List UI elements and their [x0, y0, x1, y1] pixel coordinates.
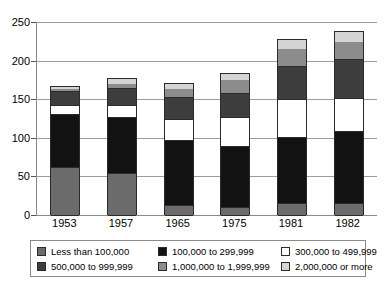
- y-tick-label: 100: [0, 133, 30, 144]
- legend-item[interactable]: 500,000 to 999,999: [35, 259, 156, 274]
- x-tick-label: 1957: [101, 217, 141, 230]
- plot-area: [36, 22, 377, 216]
- bar-segment[interactable]: [278, 100, 306, 138]
- stacked-bar-chart: 050100150200250 195319571965197519811982…: [0, 0, 392, 283]
- plot-wrapper: 050100150200250 195319571965197519811982: [0, 0, 392, 232]
- bar-segment[interactable]: [278, 204, 306, 216]
- stacked-bar[interactable]: [164, 83, 194, 215]
- bar-segment[interactable]: [335, 204, 363, 216]
- x-tick-label: 1965: [158, 217, 198, 230]
- stacked-bar[interactable]: [50, 86, 80, 215]
- bar-segment[interactable]: [108, 174, 136, 216]
- x-tick-label: 1975: [214, 217, 254, 230]
- y-tick-label: 50: [0, 171, 30, 182]
- legend-row: 500,000 to 999,999 1,000,000 to 1,999,99…: [35, 259, 361, 274]
- legend: Less than 100,000 100,000 to 299,999 300…: [30, 240, 366, 277]
- stacked-bar[interactable]: [277, 39, 307, 215]
- bar-segment[interactable]: [221, 147, 249, 209]
- legend-item-label: Less than 100,000: [51, 246, 129, 257]
- bar-segment[interactable]: [335, 42, 363, 61]
- legend-row: Less than 100,000 100,000 to 299,999 300…: [35, 244, 361, 259]
- y-axis: 050100150200250: [0, 0, 30, 232]
- bar-segment[interactable]: [51, 168, 79, 216]
- bar-segment[interactable]: [278, 49, 306, 67]
- legend-item-label: 1,000,000 to 1,999,999: [172, 261, 270, 272]
- legend-item-label: 300,000 to 499,999: [295, 246, 377, 257]
- legend-swatch-icon: [158, 247, 167, 256]
- bar-segment[interactable]: [335, 60, 363, 99]
- bar-segment[interactable]: [108, 118, 136, 174]
- stacked-bar[interactable]: [334, 31, 364, 216]
- bars-layer: [37, 22, 377, 215]
- bar-segment[interactable]: [165, 120, 193, 141]
- legend-swatch-icon: [281, 262, 290, 271]
- bar-segment[interactable]: [278, 67, 306, 100]
- y-tick-label: 0: [0, 210, 30, 221]
- legend-item[interactable]: 300,000 to 499,999: [279, 244, 361, 259]
- legend-item[interactable]: Less than 100,000: [35, 244, 156, 259]
- stacked-bar[interactable]: [220, 73, 250, 215]
- x-tick-label: 1981: [271, 217, 311, 230]
- bar-segment[interactable]: [165, 206, 193, 216]
- bar-segment[interactable]: [51, 92, 79, 106]
- legend-swatch-icon: [158, 262, 167, 271]
- bar-segment[interactable]: [108, 89, 136, 106]
- bar-segment[interactable]: [165, 141, 193, 206]
- bar-segment[interactable]: [51, 106, 79, 114]
- x-tick-label: 1982: [328, 217, 368, 230]
- x-axis: 195319571965197519811982: [36, 217, 376, 233]
- bar-segment[interactable]: [335, 132, 363, 204]
- bar-segment[interactable]: [221, 118, 249, 147]
- legend-item-label: 2,000,000 or more: [295, 261, 373, 272]
- bar-segment[interactable]: [165, 89, 193, 97]
- legend-swatch-icon: [281, 247, 290, 256]
- legend-swatch-icon: [37, 262, 46, 271]
- bar-segment[interactable]: [51, 115, 79, 168]
- y-tick-label: 250: [0, 17, 30, 28]
- bar-segment[interactable]: [221, 94, 249, 118]
- legend-item[interactable]: 1,000,000 to 1,999,999: [156, 259, 279, 274]
- stacked-bar[interactable]: [107, 78, 137, 215]
- legend-item[interactable]: 100,000 to 299,999: [156, 244, 279, 259]
- legend-item-label: 100,000 to 299,999: [172, 246, 254, 257]
- bar-segment[interactable]: [165, 98, 193, 120]
- bar-segment[interactable]: [108, 106, 136, 118]
- bar-segment[interactable]: [221, 208, 249, 216]
- legend-item[interactable]: 2,000,000 or more: [279, 259, 361, 274]
- bar-segment[interactable]: [278, 40, 306, 49]
- bar-segment[interactable]: [278, 138, 306, 204]
- bar-segment[interactable]: [221, 80, 249, 94]
- y-tick-label: 150: [0, 94, 30, 105]
- legend-item-label: 500,000 to 999,999: [51, 261, 133, 272]
- bar-segment[interactable]: [335, 32, 363, 42]
- x-tick-label: 1953: [44, 217, 84, 230]
- legend-swatch-icon: [37, 247, 46, 256]
- y-tick-label: 200: [0, 56, 30, 67]
- bar-segment[interactable]: [335, 99, 363, 132]
